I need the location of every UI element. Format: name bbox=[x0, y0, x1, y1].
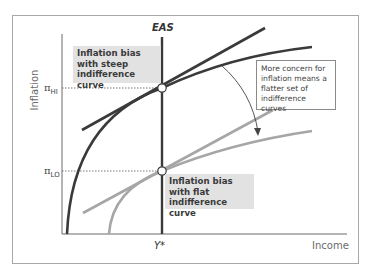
y-star-tick: Y* bbox=[154, 240, 165, 251]
x-axis-label: Income bbox=[312, 240, 349, 251]
pi-symbol: π bbox=[44, 82, 51, 93]
high-equilibrium-point bbox=[158, 84, 166, 92]
pi-symbol: π bbox=[44, 165, 51, 176]
pi-lo-tick: πLO bbox=[44, 165, 60, 179]
arrow-head-icon bbox=[254, 128, 261, 136]
eas-label: EAS bbox=[152, 22, 174, 33]
pi-lo-subscript: LO bbox=[51, 171, 60, 179]
pi-hi-tick: πHI bbox=[44, 82, 58, 96]
steep-bias-label: Inflation bias with steep indifference c… bbox=[73, 46, 161, 83]
annotation-note: More concern for inflation means a flatt… bbox=[256, 60, 336, 110]
pi-hi-subscript: HI bbox=[51, 88, 58, 96]
inflation-bias-diagram bbox=[0, 0, 372, 278]
flat-bias-label: Inflation bias with flat indifference cu… bbox=[165, 174, 254, 209]
y-axis-label: Inflation bbox=[29, 71, 40, 111]
